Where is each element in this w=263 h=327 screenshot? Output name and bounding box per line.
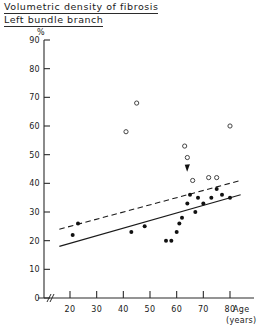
filled-circle-point xyxy=(228,196,232,200)
filled-circle-point xyxy=(180,216,184,220)
filled-circle-point xyxy=(175,230,179,234)
plot-annotations xyxy=(185,164,190,172)
y-tick-label: 30 xyxy=(29,208,40,217)
y-tick-label: 90 xyxy=(29,36,40,45)
figure-container: Volumetric density of fibrosis Left bund… xyxy=(0,0,263,327)
x-tick-label: 40 xyxy=(118,305,129,314)
filled-circle-point xyxy=(177,221,181,225)
open-circle-point xyxy=(215,176,219,180)
x-tick-label: 20 xyxy=(65,305,76,314)
filled-circle-point xyxy=(169,239,173,243)
y-tick-label: 40 xyxy=(29,179,40,188)
filled-circle-point xyxy=(185,201,189,205)
y-tick-label: 20 xyxy=(29,237,40,246)
down-arrow-icon xyxy=(185,164,190,172)
filled-circle-point xyxy=(196,196,200,200)
filled-circle-point xyxy=(188,193,192,197)
open-circle-point xyxy=(183,144,187,148)
open-circle-point xyxy=(228,124,232,128)
filled-circle-point xyxy=(215,187,219,191)
filled-circle-point xyxy=(143,224,147,228)
x-tick-label: 50 xyxy=(145,305,156,314)
x-tick-label: 70 xyxy=(198,305,209,314)
y-tick-label: 10 xyxy=(29,265,40,274)
filled-circle-point xyxy=(201,201,205,205)
filled-circle-point xyxy=(193,210,197,214)
filled-circle-point xyxy=(76,221,80,225)
x-tick-label: 60 xyxy=(171,305,182,314)
regression-lines xyxy=(59,180,240,246)
open-circle-point xyxy=(124,130,128,134)
filled-circle-point xyxy=(71,233,75,237)
filled-circle-point xyxy=(209,196,213,200)
solid-regression-line xyxy=(59,195,240,247)
scatter-plot: % 0102030405060708090 20304050607080 Age… xyxy=(0,0,263,327)
data-points xyxy=(71,101,232,243)
x-axis-title: Age xyxy=(233,305,249,314)
filled-circle-point xyxy=(220,193,224,197)
open-circle-point xyxy=(207,176,211,180)
x-axis-ticks: 20304050607080 xyxy=(65,291,236,314)
y-axis-ticks: 0102030405060708090 xyxy=(29,36,50,303)
open-circle-point xyxy=(191,178,195,182)
x-axis-unit-label: (years) xyxy=(226,316,256,325)
y-tick-label: 70 xyxy=(29,93,40,102)
y-tick-label: 60 xyxy=(29,122,40,131)
open-circle-point xyxy=(135,101,139,105)
x-tick-label: 30 xyxy=(91,305,102,314)
open-circle-point xyxy=(185,155,189,159)
filled-circle-point xyxy=(129,230,133,234)
y-tick-label: 80 xyxy=(29,65,40,74)
y-tick-label: 50 xyxy=(29,151,40,160)
dashed-regression-line xyxy=(59,180,240,229)
y-tick-label: 0 xyxy=(35,294,40,303)
filled-circle-point xyxy=(164,239,168,243)
